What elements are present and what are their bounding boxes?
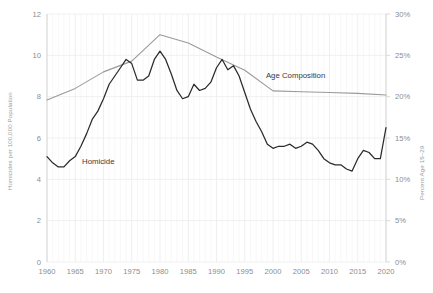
left-tick-label: 6	[37, 134, 41, 143]
left-tick-label: 10	[33, 51, 41, 60]
x-tick-label: 2020	[378, 267, 395, 276]
x-tick-label: 1975	[123, 267, 140, 276]
x-tick-label: 1990	[208, 267, 225, 276]
homicide-series-label: Homicide	[82, 157, 115, 166]
right-tick-label: 20%	[395, 92, 410, 101]
x-tick-label: 1985	[180, 267, 197, 276]
dual-axis-line-chart: 024681012 0%5%10%15%20%25%30% 1960196519…	[0, 0, 433, 293]
left-tick-label: 0	[37, 258, 41, 267]
age-composition-series-label: Age Composition	[266, 71, 325, 80]
x-tick-label: 2010	[321, 267, 338, 276]
right-tick-label: 5%	[395, 216, 406, 225]
right-tick-label: 15%	[395, 134, 410, 143]
right-tick-label: 30%	[395, 10, 410, 19]
x-tick-label: 2015	[349, 267, 366, 276]
left-axis-title: Homicides per 100,000 Population	[6, 92, 13, 190]
x-tick-label: 1960	[39, 267, 56, 276]
x-tick-label: 1965	[67, 267, 84, 276]
left-tick-label: 12	[33, 10, 41, 19]
right-tick-label: 25%	[395, 51, 410, 60]
left-tick-label: 2	[37, 216, 41, 225]
x-tick-label: 1995	[236, 267, 253, 276]
x-tick-label: 1970	[95, 267, 112, 276]
right-axis-title: Percent Age 15–29	[418, 145, 425, 200]
right-tick-label: 0%	[395, 258, 406, 267]
left-tick-label: 4	[37, 175, 41, 184]
x-tick-label: 2000	[265, 267, 282, 276]
left-tick-label: 8	[37, 92, 41, 101]
right-tick-label: 10%	[395, 175, 410, 184]
x-tick-label: 2005	[293, 267, 310, 276]
chart-container: 024681012 0%5%10%15%20%25%30% 1960196519…	[0, 0, 433, 293]
x-tick-label: 1980	[152, 267, 169, 276]
